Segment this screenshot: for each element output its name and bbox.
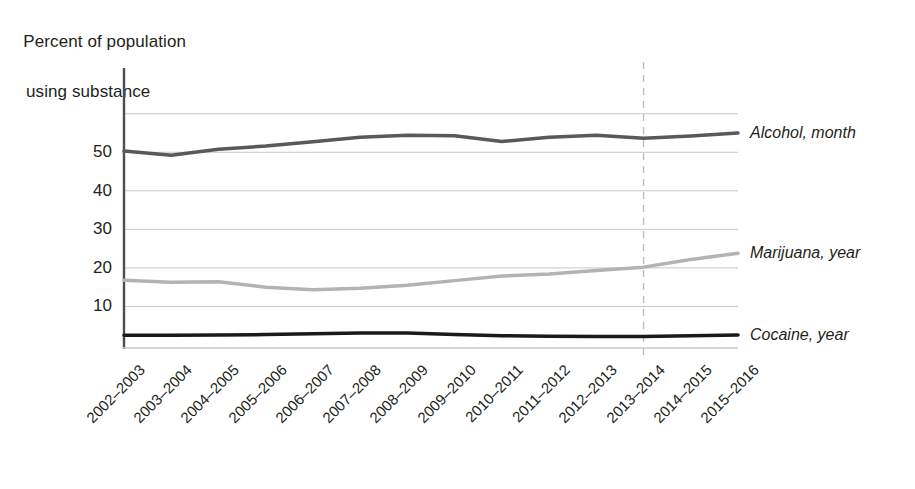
series-label-marijuana: Marijuana, year — [750, 244, 860, 262]
y-tick-label-30: 30 — [70, 219, 112, 239]
series-label-alcohol: Alcohol, month — [750, 124, 856, 142]
series-label-cocaine: Cocaine, year — [750, 326, 849, 344]
y-tick-label-50: 50 — [70, 142, 112, 162]
series-line-marijuana — [124, 253, 738, 290]
gridlines — [124, 114, 738, 307]
y-tick-label-10: 10 — [70, 296, 112, 316]
series-line-cocaine — [124, 333, 738, 336]
y-tick-label-40: 40 — [70, 181, 112, 201]
y-tick-label-20: 20 — [70, 258, 112, 278]
chart-figure: Percent of population using substance 10… — [0, 0, 915, 489]
